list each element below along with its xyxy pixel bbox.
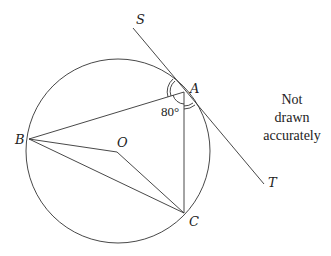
angle-bac-label: 80° <box>161 104 179 119</box>
note-line-2: drawn <box>252 109 331 127</box>
point-b-label: B <box>14 132 25 147</box>
not-drawn-accurately-note: Not drawn accurately <box>252 91 331 145</box>
note-line-3: accurately <box>252 127 331 145</box>
angle-cat-marker <box>184 103 195 109</box>
angle-sab-marker <box>167 79 175 97</box>
point-c-label: C <box>189 214 199 229</box>
point-t-label: T <box>268 175 278 190</box>
point-a-label: A <box>189 81 199 96</box>
note-line-1: Not <box>252 91 331 109</box>
radius-oc <box>117 152 184 213</box>
angle-bac-marker <box>173 95 184 104</box>
point-o-label: O <box>117 135 128 150</box>
tangent-line-st <box>133 28 264 184</box>
point-s-label: S <box>136 12 145 27</box>
